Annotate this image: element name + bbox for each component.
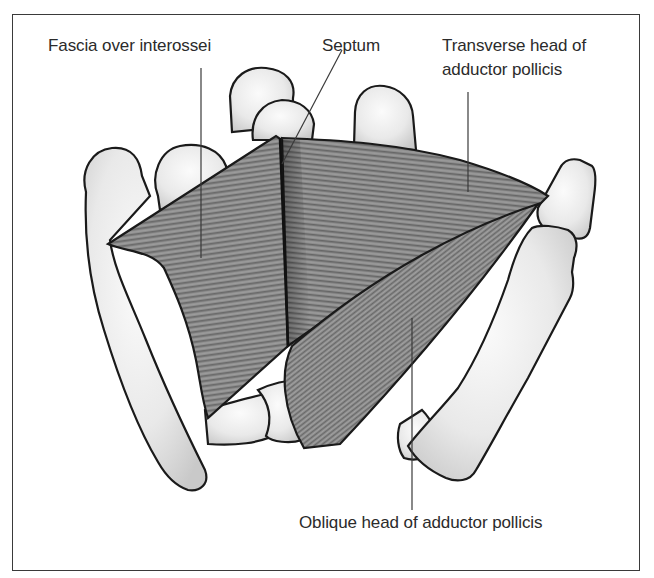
label-transverse-head-line2: adductor pollicis (442, 59, 562, 80)
metacarpal-head-5 (354, 86, 416, 150)
hand-illustration (0, 0, 654, 578)
label-oblique-head: Oblique head of adductor pollicis (299, 512, 542, 533)
label-transverse-head-line1: Transverse head of (442, 35, 586, 56)
anatomy-figure: Fascia over interossei Septum Transverse… (0, 0, 654, 578)
label-fascia-over-interossei: Fascia over interossei (48, 35, 211, 56)
label-septum: Septum (322, 35, 380, 56)
